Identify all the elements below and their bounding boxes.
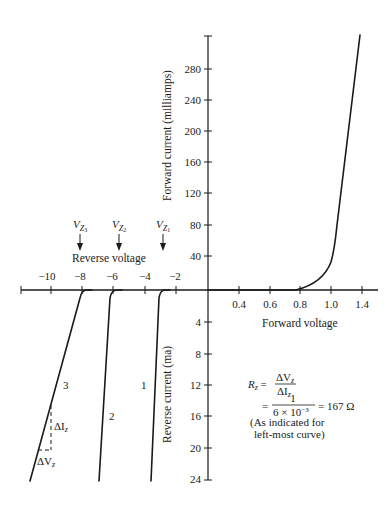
forward-voltage-title: Forward voltage: [262, 317, 338, 330]
curve-3-label: 3: [63, 379, 69, 391]
reverse-curve-2: [99, 290, 122, 481]
svg-text:VZ1: VZ1: [156, 218, 170, 233]
svg-text:40: 40: [190, 250, 202, 262]
svg-text:16: 16: [190, 410, 202, 422]
svg-text:240: 240: [185, 94, 202, 106]
svg-text:=: =: [262, 400, 268, 412]
delta-i-label: ΔIz: [54, 420, 69, 434]
svg-text:280: 280: [185, 63, 202, 75]
reverse-current-title: Reverse current (ma): [161, 346, 174, 443]
svg-text:−4: −4: [139, 270, 151, 282]
svg-text:24: 24: [190, 473, 202, 485]
vz1-marker: VZ1: [156, 218, 170, 251]
svg-text:0.4: 0.4: [232, 298, 246, 310]
svg-text:1: 1: [290, 392, 296, 404]
svg-text:−2: −2: [169, 270, 181, 282]
svg-text:1.0: 1.0: [324, 298, 338, 310]
svg-text:−10: −10: [38, 270, 56, 282]
svg-text:= 167 Ω: = 167 Ω: [318, 400, 354, 412]
zener-diode-chart: 280 240 200 160 120 80 40 4 8 12 16 20 2…: [0, 0, 391, 511]
svg-text:VZ3: VZ3: [73, 218, 87, 233]
svg-text:−8: −8: [74, 270, 86, 282]
svg-text:12: 12: [190, 379, 201, 391]
svg-text:0.8: 0.8: [293, 298, 307, 310]
vz3-marker: VZ3: [73, 218, 87, 251]
down-arrow-icon: [160, 243, 166, 251]
svg-text:8: 8: [196, 348, 202, 360]
curve-2-label: 2: [109, 410, 115, 422]
curve-1-label: 1: [141, 379, 147, 391]
reverse-voltage-title: Reverse voltage: [72, 252, 146, 265]
svg-text:200: 200: [185, 125, 202, 137]
svg-text:20: 20: [190, 442, 202, 454]
svg-text:1.4: 1.4: [355, 298, 369, 310]
reverse-current-tick-labels: 4 8 12 16 20 24: [190, 316, 202, 485]
svg-text:VZ2: VZ2: [112, 218, 126, 233]
svg-text:ΔVz: ΔVz: [276, 371, 295, 385]
forward-voltage-tick-labels: 0.4 0.6 0.8 1.0 1.4: [232, 298, 369, 310]
svg-text:Rz =: Rz =: [247, 378, 267, 392]
reverse-curve-3: [30, 290, 92, 481]
delta-v-label: ΔVz: [37, 455, 56, 469]
forward-curve: [208, 35, 360, 290]
svg-text:−6: −6: [106, 270, 118, 282]
vz2-marker: VZ2: [112, 218, 126, 251]
down-arrow-icon: [116, 243, 122, 251]
svg-text:80: 80: [190, 219, 202, 231]
down-arrow-icon: [77, 243, 83, 251]
svg-text:120: 120: [185, 187, 202, 199]
breakdown-markers: VZ3 VZ2 VZ1: [73, 218, 170, 251]
svg-text:160: 160: [185, 156, 202, 168]
forward-current-tick-labels: 280 240 200 160 120 80 40: [185, 63, 202, 262]
rz-formula: Rz = ΔVz ΔIz = 1 6 × 10−3 = 167 Ω (As in…: [247, 371, 354, 441]
svg-text:4: 4: [196, 316, 202, 328]
reverse-voltage-tick-labels: −10 −8 −6 −4 −2: [38, 270, 180, 282]
svg-text:0.6: 0.6: [263, 298, 277, 310]
forward-current-title: Forward current (milliamps): [161, 70, 174, 201]
svg-text:left-most curve): left-most curve): [254, 428, 325, 441]
